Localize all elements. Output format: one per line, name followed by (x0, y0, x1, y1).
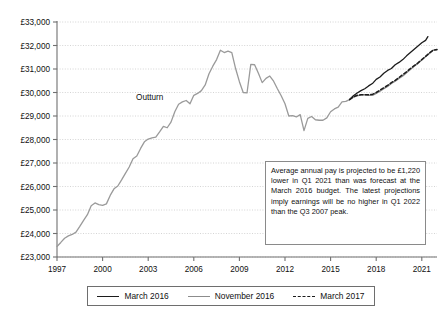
x-tick-label: 2006 (185, 265, 204, 274)
pay-forecast-chart: £23,000£24,000£25,000£26,000£27,000£28,0… (0, 0, 446, 315)
y-tick-label: £26,000 (20, 183, 50, 192)
series-line-march-2017 (350, 50, 437, 100)
y-tick-label: £32,000 (20, 42, 50, 51)
legend-label-march-2016: March 2016 (124, 291, 168, 301)
y-tick-label: £27,000 (20, 159, 50, 168)
x-tick-label: 2003 (139, 265, 158, 274)
x-tick-label: 2021 (413, 265, 432, 274)
y-tick-label: £23,000 (20, 253, 50, 262)
legend-swatch-solid-dark-icon (97, 296, 119, 297)
x-tick-label: 2018 (367, 265, 386, 274)
x-tick-label: 2009 (230, 265, 249, 274)
legend-label-march-2017: March 2017 (320, 291, 364, 301)
y-tick-label: £28,000 (20, 136, 50, 145)
legend-swatch-dashed-icon (293, 296, 315, 297)
series-line-march-2016 (350, 37, 428, 100)
x-tick-label: 1997 (48, 265, 67, 274)
y-tick-label: £24,000 (20, 230, 50, 239)
outturn-label: Outturn (136, 93, 164, 102)
legend-item-march-2016[interactable]: March 2016 (97, 291, 168, 301)
y-tick-label: £33,000 (20, 18, 50, 27)
legend-label-november-2016: November 2016 (215, 291, 275, 301)
y-tick-label: £30,000 (20, 89, 50, 98)
legend-swatch-solid-grey-icon (188, 296, 210, 297)
y-tick-label: £25,000 (20, 206, 50, 215)
x-tick-label: 2012 (276, 265, 295, 274)
x-tick-label: 2000 (93, 265, 112, 274)
y-tick-label: £31,000 (20, 65, 50, 74)
legend-item-march-2017[interactable]: March 2017 (293, 291, 364, 301)
annotation-text: Average annual pay is projected to be £1… (271, 166, 420, 217)
y-tick-label: £29,000 (20, 112, 50, 121)
chart-canvas: £23,000£24,000£25,000£26,000£27,000£28,0… (0, 0, 446, 315)
x-tick-label: 2015 (321, 265, 340, 274)
annotation-callout-box: Average annual pay is projected to be £1… (265, 161, 426, 245)
legend-item-november-2016[interactable]: November 2016 (188, 291, 275, 301)
chart-legend: March 2016 November 2016 March 2017 (87, 286, 375, 306)
